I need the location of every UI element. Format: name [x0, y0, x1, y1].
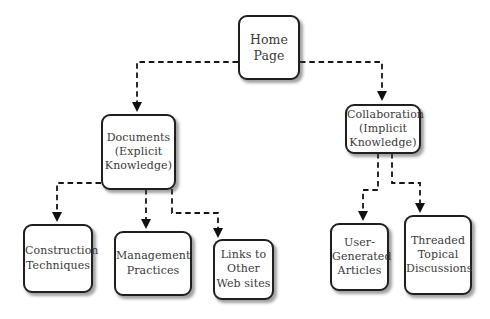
- node-management-label: Management Practices: [116, 249, 190, 277]
- arrowhead-down-icon: [377, 91, 387, 101]
- arrowhead-down-icon: [415, 203, 425, 213]
- node-usergen-label: User- Generated Articles: [332, 236, 387, 278]
- node-links-to-other-web-sites: Links to Other Web sites: [213, 239, 274, 300]
- arrowhead-down-icon: [132, 102, 142, 112]
- node-management-practices: Management Practices: [114, 231, 192, 296]
- arrowhead-down-icon: [358, 211, 368, 221]
- connector-documents-management: [141, 189, 151, 229]
- node-construction-techniques: Construction Techniques: [23, 224, 93, 293]
- node-home-page: Home Page: [238, 15, 300, 80]
- arrowhead-down-icon: [52, 212, 62, 222]
- node-collaboration-label: Collaboration (Implicit Knowledge): [347, 108, 419, 150]
- connector-home-documents: [132, 62, 238, 112]
- connector-home-collaboration: [300, 62, 387, 101]
- sitemap-diagram: Home Page Documents (Explicit Knowledge)…: [0, 0, 490, 319]
- connector-documents-construction: [52, 183, 101, 222]
- node-threaded-topical-discussions: Threaded Topical Discussions: [404, 215, 472, 295]
- arrowhead-down-icon: [141, 219, 151, 229]
- connector-collaboration-usergen: [358, 153, 378, 221]
- arrowhead-down-icon: [213, 228, 223, 238]
- node-documents-explicit-knowledge: Documents (Explicit Knowledge): [101, 114, 176, 190]
- node-home-page-label: Home Page: [240, 32, 298, 64]
- node-threaded-label: Threaded Topical Discussions: [406, 234, 470, 276]
- node-user-generated-articles: User- Generated Articles: [330, 223, 389, 291]
- node-collaboration-implicit-knowledge: Collaboration (Implicit Knowledge): [345, 104, 421, 154]
- node-documents-label: Documents (Explicit Knowledge): [103, 131, 174, 173]
- node-construction-label: Construction Techniques: [25, 244, 91, 272]
- node-links-label: Links to Other Web sites: [215, 248, 272, 290]
- connector-collaboration-threaded: [392, 153, 425, 213]
